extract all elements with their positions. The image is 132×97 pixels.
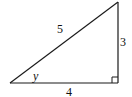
hypotenuse [10, 2, 118, 83]
right-angle-marker-icon [112, 77, 118, 83]
right-triangle-diagram: 5 3 4 y [0, 0, 132, 97]
vertical-leg-label: 3 [120, 35, 126, 49]
hypotenuse-label: 5 [57, 22, 63, 36]
angle-y-label: y [32, 69, 39, 83]
horizontal-leg-label: 4 [66, 85, 72, 97]
